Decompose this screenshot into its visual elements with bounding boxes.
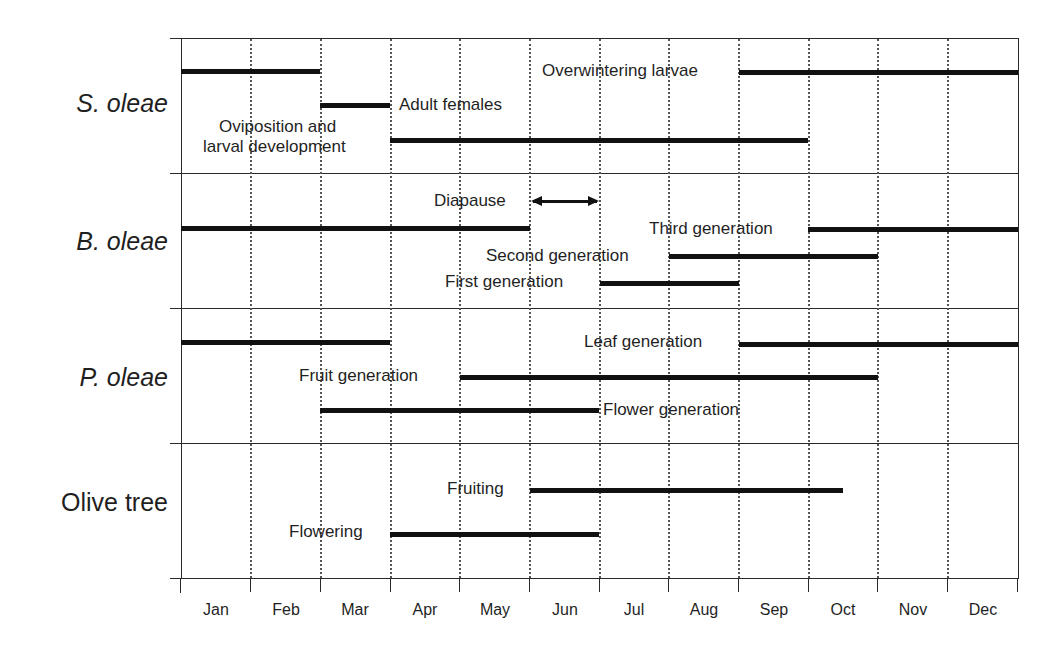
tick-1	[250, 578, 251, 592]
gridline-aug	[668, 39, 670, 578]
label-fruit-generation: Fruit generation	[299, 366, 418, 386]
tick-4	[459, 578, 460, 592]
month-label-aug: Aug	[669, 600, 739, 620]
gridline-jun	[529, 39, 531, 578]
gridline-sep	[738, 39, 740, 578]
gridline-nov	[877, 39, 879, 578]
month-label-mar: Mar	[320, 600, 390, 620]
tick-10	[877, 578, 878, 592]
row-title-s-oleae: S. oleae	[0, 88, 168, 118]
divider-s-b	[170, 173, 1019, 174]
bar-s-oleae-adult-females	[320, 103, 390, 108]
bar-olive-flowering	[390, 532, 599, 537]
tick-2	[320, 578, 321, 592]
month-label-sep: Sep	[739, 600, 809, 620]
bar-p-oleae-fruit-generation	[460, 375, 878, 380]
bar-b-oleae-second-generation	[669, 254, 878, 259]
bar-s-oleae-overwintering-early	[181, 69, 320, 74]
bar-b-oleae-first-generation	[600, 281, 739, 286]
label-second-generation: Second generation	[486, 246, 629, 266]
label-oviposition-line1: Oviposition and	[219, 117, 336, 137]
label-oviposition-line2: larval development	[203, 137, 346, 157]
tick-5	[529, 578, 530, 592]
row-title-column: S. oleae B. oleae P. oleae Olive tree	[0, 0, 168, 649]
bar-s-oleae-oviposition	[390, 138, 808, 143]
month-label-apr: Apr	[390, 600, 460, 620]
phenology-chart: Jan Feb Mar Apr May Jun Jul Aug Sep Oct …	[0, 0, 1058, 649]
bar-p-oleae-flower-generation	[320, 408, 599, 413]
row-title-olive-tree: Olive tree	[0, 487, 168, 517]
month-label-jun: Jun	[530, 600, 600, 620]
tick-8	[738, 578, 739, 592]
label-fruiting: Fruiting	[447, 479, 504, 499]
row-title-b-oleae: B. oleae	[0, 226, 168, 256]
month-label-dec: Dec	[948, 600, 1018, 620]
month-label-feb: Feb	[251, 600, 321, 620]
top-border-stub	[170, 38, 182, 39]
tick-11	[947, 578, 948, 592]
label-diapause: Diapause	[434, 191, 506, 211]
month-label-jan: Jan	[181, 600, 251, 620]
tick-12	[1017, 578, 1018, 592]
label-first-generation: First generation	[445, 272, 563, 292]
month-label-jul: Jul	[599, 600, 669, 620]
diapause-double-arrow-icon	[533, 200, 597, 203]
divider-p-olive	[170, 443, 1019, 444]
tick-9	[808, 578, 809, 592]
tick-0	[180, 578, 181, 593]
x-axis-line	[170, 578, 1019, 579]
label-leaf-generation: Leaf generation	[584, 332, 702, 352]
gridline-apr	[390, 39, 392, 578]
label-third-generation: Third generation	[649, 219, 773, 239]
label-adult-females: Adult females	[399, 95, 502, 115]
label-flowering: Flowering	[289, 522, 363, 542]
label-flower-generation: Flower generation	[603, 400, 739, 420]
bar-b-oleae-third-generation	[808, 227, 1018, 232]
gridline-dec	[947, 39, 949, 578]
divider-b-p	[170, 308, 1019, 309]
bar-s-oleae-overwintering-late	[739, 70, 1018, 75]
month-label-nov: Nov	[878, 600, 948, 620]
label-overwintering-larvae: Overwintering larvae	[542, 61, 698, 81]
bar-p-oleae-leaf-late	[739, 342, 1018, 347]
tick-6	[599, 578, 600, 592]
tick-7	[668, 578, 669, 592]
gridline-oct	[808, 39, 810, 578]
gridline-jul	[599, 39, 601, 578]
tick-3	[390, 578, 391, 592]
row-title-p-oleae: P. oleae	[0, 362, 168, 392]
month-label-oct: Oct	[808, 600, 878, 620]
bar-b-oleae-overwintering	[181, 226, 530, 231]
month-label-may: May	[460, 600, 530, 620]
bar-olive-fruiting	[530, 488, 843, 493]
bar-p-oleae-leaf-early	[181, 340, 390, 345]
